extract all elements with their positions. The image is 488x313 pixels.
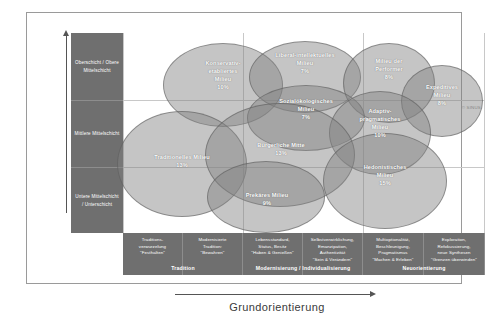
gridline-vertical (123, 33, 124, 233)
x-axis-arrow (175, 294, 371, 295)
orientation-group-text: Modernisierung / Individualisierung (256, 265, 351, 271)
social-band-label: Oberschicht / Obere Mittelschicht (74, 59, 120, 73)
orientation-group-modernisierung: Modernisierung / Individualisierung (243, 261, 363, 275)
social-band-oberschicht: Oberschicht / Obere Mittelschicht (71, 33, 123, 100)
social-band-label: Untere Mittelschicht / Unterschicht (74, 193, 120, 207)
social-band-mittlere: Mittlere Mittelschicht (71, 101, 123, 167)
bubble-hedonistisch (323, 133, 447, 229)
social-band-label: Mittlere Mittelschicht (75, 130, 120, 137)
x-axis-title: Grundorientierung (167, 301, 387, 313)
y-axis-arrow (66, 35, 67, 213)
social-band-untere: Untere Mittelschicht / Unterschicht (71, 168, 123, 233)
gridline-vertical (484, 33, 485, 233)
bubble-prekaer (207, 161, 325, 233)
orientation-group-text: Tradition (171, 265, 195, 271)
orientation-group-neuorientierung: Neuorientierung (363, 261, 485, 275)
orientation-group-tradition: Tradition (123, 261, 243, 275)
orientation-group-text: Neuorientierung (402, 265, 445, 271)
plot-area: Oberschicht / Obere Mittelschicht Mittle… (71, 33, 485, 291)
chart-card: Soziale Lage Grundorientierung Oberschic… (26, 12, 462, 284)
